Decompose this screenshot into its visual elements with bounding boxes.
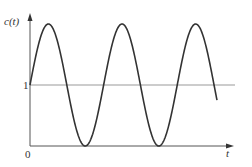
y-axis-arrow-icon — [28, 13, 33, 21]
x-axis-label: t — [226, 148, 229, 159]
tick-label-one: 1 — [23, 80, 29, 91]
chart-plot — [0, 0, 252, 167]
tick-label-zero: 0 — [25, 149, 31, 160]
y-axis-label: c(t) — [4, 16, 19, 27]
